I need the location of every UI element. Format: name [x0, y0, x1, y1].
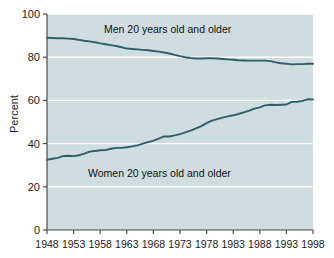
- x-axis-tick-label: 1958: [89, 238, 113, 250]
- x-axis-tick-labels: 1948195319581963196819731978198319881993…: [35, 238, 325, 250]
- y-axis-tick-label: 80: [28, 51, 40, 63]
- x-axis-tick-label: 1963: [115, 238, 139, 250]
- y-axis-tick-label: 0: [34, 224, 40, 236]
- series-label-women: Women 20 years old and older: [88, 167, 231, 179]
- y-axis-tick-label: 40: [28, 138, 40, 150]
- x-axis-tick-label: 1968: [142, 238, 166, 250]
- y-axis-tick-labels: 020406080100: [22, 8, 40, 236]
- series-label-men: Men 20 years old and older: [104, 23, 232, 35]
- x-axis-tick-label: 1998: [301, 238, 325, 250]
- x-axis-tick-label: 1948: [35, 238, 59, 250]
- plot-background: [47, 14, 313, 230]
- y-axis-tick-label: 20: [28, 181, 40, 193]
- y-axis-tick-label: 60: [28, 94, 40, 106]
- x-axis-tick-label: 1983: [222, 238, 246, 250]
- x-axis-tick-label: 1978: [195, 238, 219, 250]
- x-axis-tick-label: 1973: [168, 238, 192, 250]
- chart-canvas: 020406080100 194819531958196319681973197…: [0, 0, 334, 258]
- y-axis-tick-label: 100: [22, 8, 40, 20]
- labor-force-participation-chart: Percent 020406080100 1948195319581963196…: [0, 0, 334, 258]
- x-axis-tick-label: 1993: [275, 238, 299, 250]
- x-axis-ticks: [47, 230, 313, 234]
- x-axis-tick-label: 1988: [248, 238, 272, 250]
- x-axis-tick-label: 1953: [62, 238, 86, 250]
